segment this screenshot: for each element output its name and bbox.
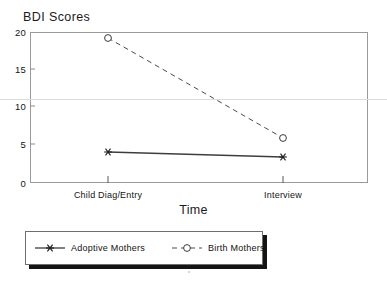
series-adoptive-mothers (104, 149, 287, 161)
data-point-adoptive-mothers-2 (279, 154, 287, 161)
legend-label-birth-mothers: Birth Mothers (208, 243, 265, 253)
legend-item-birth-mothers: Birth Mothers (171, 242, 265, 254)
scan-artifact-dot (188, 271, 190, 273)
legend-marker-open-circle-icon (171, 242, 203, 254)
series-birth-mothers-line (108, 38, 283, 138)
figure-canvas: BDI Scores 20 15 10 5 0 Child Diag/Entry… (0, 0, 387, 281)
data-point-adoptive-mothers-1 (104, 149, 112, 156)
scan-artifact-line (0, 99, 387, 100)
series-birth-mothers (105, 35, 287, 142)
legend-marker-asterisk-icon (34, 242, 66, 254)
chart-legend: Adoptive Mothers Birth Mothers (25, 231, 263, 265)
data-point-birth-mothers-2 (280, 135, 287, 142)
data-point-birth-mothers-1 (105, 35, 112, 42)
x-axis-ticks (108, 176, 283, 183)
series-adoptive-mothers-line (108, 152, 283, 157)
legend-item-adoptive-mothers: Adoptive Mothers (34, 242, 145, 254)
y-axis-ticks (30, 69, 35, 144)
legend-label-adoptive-mothers: Adoptive Mothers (71, 243, 145, 253)
